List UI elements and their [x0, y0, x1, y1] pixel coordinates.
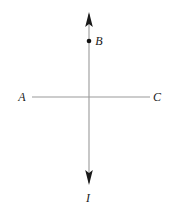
geometry-figure-canvas: A B C I	[0, 0, 174, 209]
label-c: C	[153, 90, 162, 104]
label-b: B	[95, 34, 103, 48]
label-current-i: I	[85, 191, 91, 205]
label-a: A	[17, 90, 26, 104]
figure-svg: A B C I	[0, 0, 174, 209]
point-b-marker	[87, 39, 92, 44]
